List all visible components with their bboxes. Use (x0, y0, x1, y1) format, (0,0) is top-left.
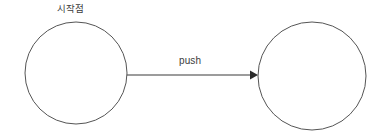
diagram-svg (0, 0, 379, 139)
diagram-canvas: 시작점 push (0, 0, 379, 139)
edge-push-label: push (179, 55, 201, 67)
node-start-label: 시작점 (57, 3, 84, 15)
node-target-circle[interactable] (258, 22, 366, 130)
edge-push-arrowhead-icon (250, 71, 258, 80)
node-start-circle[interactable] (25, 22, 127, 124)
